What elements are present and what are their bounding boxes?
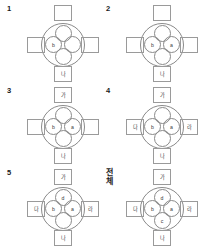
square-left	[27, 119, 45, 135]
square-right-label: 라	[181, 202, 197, 217]
square-left	[27, 37, 45, 53]
square-bottom: 나	[153, 66, 171, 82]
panel-1-label: 1	[7, 5, 23, 13]
panel-2-diagram: 나ba	[126, 3, 198, 83]
diagram-figure: 1나b2나ba3가나ba4가다라나ba5가다라나dba전 체가다라나dbac	[0, 0, 199, 247]
square-left-label: 다	[127, 202, 143, 217]
square-bottom-label: 나	[55, 231, 71, 246]
square-top-label: 가	[154, 88, 170, 103]
inner-circle-bottom	[55, 130, 72, 147]
square-bottom-label: 나	[154, 231, 170, 246]
square-bottom: 나	[54, 148, 72, 164]
square-top	[153, 5, 171, 21]
square-left-label: 다	[127, 120, 143, 135]
square-right: 라	[81, 201, 99, 217]
panel-all-label: 전 체	[106, 169, 122, 186]
square-left: 다	[126, 201, 144, 217]
panel-3: 3가나ba	[0, 83, 99, 165]
panel-3-diagram: 가나ba	[27, 85, 99, 165]
panel-5-diagram: 가다라나dba	[27, 167, 99, 247]
panel-4-diagram: 가다라나ba	[126, 85, 198, 165]
panel-1: 1나b	[0, 1, 99, 83]
square-left: 다	[27, 201, 45, 217]
square-left-label: 다	[28, 202, 44, 217]
panel-4: 4가다라나ba	[99, 83, 198, 165]
panel-5: 5가다라나dba	[0, 165, 99, 247]
panel-5-label: 5	[7, 169, 23, 177]
panel-3-label: 3	[7, 87, 23, 95]
inner-circle-bottom	[55, 212, 72, 229]
panel-all: 전 체가다라나dbac	[99, 165, 198, 247]
square-bottom: 나	[153, 148, 171, 164]
square-top-label: 가	[55, 88, 71, 103]
square-top: 가	[153, 169, 171, 185]
panel-4-label: 4	[106, 87, 122, 95]
square-bottom: 나	[153, 230, 171, 246]
square-right	[81, 119, 99, 135]
square-top: 가	[153, 87, 171, 103]
square-right	[180, 37, 198, 53]
square-bottom: 나	[54, 66, 72, 82]
square-top: 가	[54, 87, 72, 103]
inner-circle-bottom: c	[154, 212, 171, 229]
square-right	[81, 37, 99, 53]
square-right-label: 라	[181, 120, 197, 135]
square-bottom: 나	[54, 230, 72, 246]
square-top-label: 가	[55, 170, 71, 185]
panel-1-diagram: 나b	[27, 3, 99, 83]
panel-2-label: 2	[106, 5, 122, 13]
square-bottom-label: 나	[55, 67, 71, 82]
panel-2: 2나ba	[99, 1, 198, 83]
square-bottom-label: 나	[154, 149, 170, 164]
inner-circle-bottom-label: c	[155, 213, 170, 229]
inner-circle-bottom	[55, 48, 72, 65]
square-bottom-label: 나	[55, 149, 71, 164]
inner-circle-bottom	[154, 130, 171, 147]
panel-all-diagram: 가다라나dbac	[126, 167, 198, 247]
square-top	[54, 5, 72, 21]
square-top-label: 가	[154, 170, 170, 185]
square-left	[126, 37, 144, 53]
square-left: 다	[126, 119, 144, 135]
square-right-label: 라	[82, 202, 98, 217]
square-right: 라	[180, 119, 198, 135]
square-bottom-label: 나	[154, 67, 170, 82]
inner-circle-bottom	[154, 48, 171, 65]
square-right: 라	[180, 201, 198, 217]
square-top: 가	[54, 169, 72, 185]
